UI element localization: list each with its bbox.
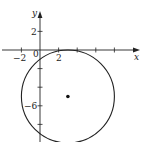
y-tick-label-neg6: −6 (24, 101, 38, 111)
x-tick-label-2: 2 (56, 53, 62, 63)
origin-label: 0 (33, 49, 39, 59)
x-axis-label: x (134, 52, 139, 62)
x-tick-label-neg2: −2 (13, 53, 26, 63)
y-axis (38, 11, 43, 142)
center-point (66, 95, 70, 99)
y-axis-label: y (31, 8, 38, 18)
y-axis-arrow-icon (38, 11, 43, 18)
circle-graph: y x −2 0 2 2 −6 (0, 0, 154, 142)
y-tick-label-2: 2 (31, 27, 37, 37)
